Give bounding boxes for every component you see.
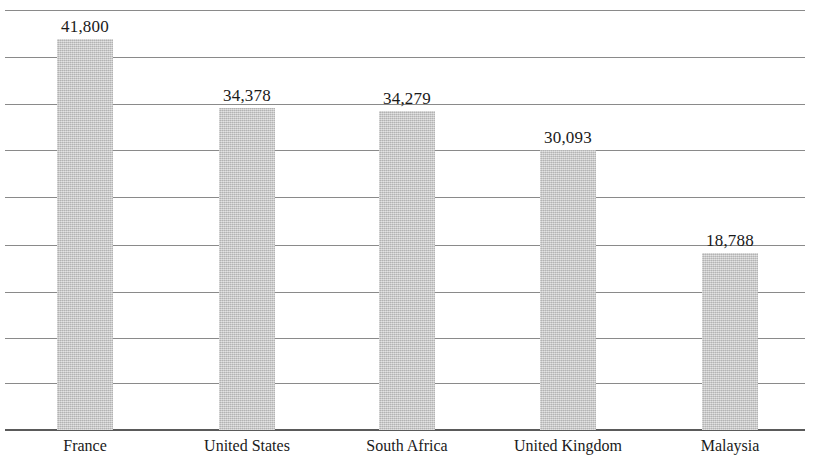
bar-group-united-states: 34,378 [167, 0, 327, 430]
bar-value-south-africa: 34,279 [383, 89, 431, 108]
bar-chart: 41,800 34,378 34,279 30,093 18,788 Franc… [0, 0, 813, 460]
bar-united-kingdom[interactable] [540, 150, 596, 430]
bar-france[interactable] [57, 39, 113, 430]
bar-group-france: 41,800 [5, 0, 165, 430]
bar-group-south-africa: 34,279 [327, 0, 487, 430]
bar-value-united-kingdom: 30,093 [544, 128, 592, 147]
bar-malaysia[interactable] [702, 253, 758, 430]
bar-south-africa[interactable] [379, 111, 435, 430]
bars-layer: 41,800 34,378 34,279 30,093 18,788 [0, 0, 813, 460]
bar-value-malaysia: 18,788 [706, 231, 754, 250]
bar-value-france: 41,800 [61, 17, 109, 36]
bar-united-states[interactable] [219, 108, 275, 430]
category-label-malaysia: Malaysia [630, 436, 813, 456]
bar-value-united-states: 34,378 [223, 86, 271, 105]
bar-group-united-kingdom: 30,093 [488, 0, 648, 430]
bar-group-malaysia: 18,788 [650, 0, 810, 430]
